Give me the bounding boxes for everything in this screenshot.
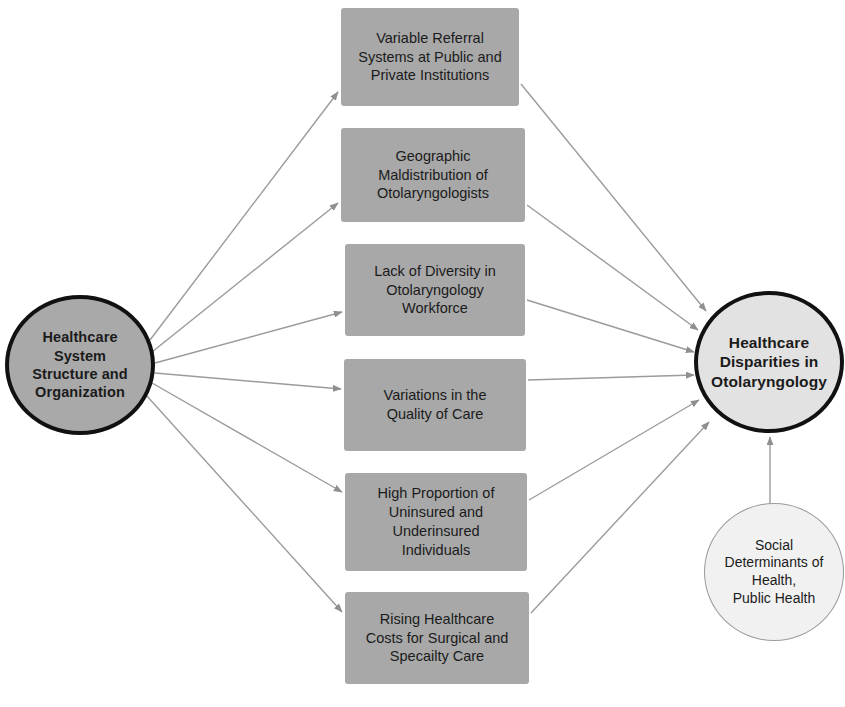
edge-lack-of-diversity-to-healthcare-disparities	[527, 300, 694, 352]
edge-variable-referral-systems-to-healthcare-disparities	[521, 84, 706, 311]
edge-healthcare-system-structure-to-lack-of-diversity	[155, 312, 342, 363]
node-label: Lack of Diversity in Otolaryngology Work…	[374, 262, 496, 319]
edges-from-source	[146, 92, 342, 612]
edge-rising-healthcare-costs-to-healthcare-disparities	[531, 422, 709, 613]
node-geographic-maldistribution[interactable]: Geographic Maldistribution of Otolaryngo…	[341, 128, 525, 222]
edge-healthcare-system-structure-to-variable-referral-systems	[150, 92, 338, 340]
node-label: High Proportion of Uninsured and Underin…	[378, 484, 495, 559]
node-label: Geographic Maldistribution of Otolaryngo…	[377, 147, 489, 204]
node-variable-referral-systems[interactable]: Variable Referral Systems at Public and …	[341, 8, 519, 106]
edge-healthcare-system-structure-to-rising-healthcare-costs	[146, 395, 342, 612]
edge-high-proportion-uninsured-to-healthcare-disparities	[529, 400, 699, 500]
edge-healthcare-system-structure-to-geographic-maldistribution	[152, 203, 338, 352]
node-healthcare-system-structure[interactable]: Healthcare System Structure and Organiza…	[5, 295, 155, 435]
node-label: Variations in the Quality of Care	[384, 386, 487, 424]
node-high-proportion-uninsured[interactable]: High Proportion of Uninsured and Underin…	[345, 473, 527, 571]
diagram-canvas: Healthcare System Structure and Organiza…	[0, 0, 845, 707]
node-lack-of-diversity[interactable]: Lack of Diversity in Otolaryngology Work…	[345, 244, 525, 336]
node-rising-healthcare-costs[interactable]: Rising Healthcare Costs for Surgical and…	[345, 592, 529, 684]
node-label: Healthcare System Structure and Organiza…	[32, 328, 128, 401]
node-social-determinants[interactable]: Social Determinants of Health, Public He…	[704, 503, 844, 641]
node-label: Social Determinants of Health, Public He…	[725, 537, 824, 608]
node-healthcare-disparities[interactable]: Healthcare Disparities in Otolaryngology	[694, 291, 844, 433]
node-variations-quality-of-care[interactable]: Variations in the Quality of Care	[344, 359, 526, 451]
edge-geographic-maldistribution-to-healthcare-disparities	[527, 205, 698, 330]
edge-healthcare-system-structure-to-high-proportion-uninsured	[152, 383, 342, 492]
node-label: Rising Healthcare Costs for Surgical and…	[366, 610, 509, 667]
node-label: Variable Referral Systems at Public and …	[358, 29, 501, 86]
node-label: Healthcare Disparities in Otolaryngology	[711, 333, 827, 392]
edge-healthcare-system-structure-to-variations-quality-of-care	[155, 373, 341, 389]
edge-variations-quality-of-care-to-healthcare-disparities	[528, 375, 694, 380]
